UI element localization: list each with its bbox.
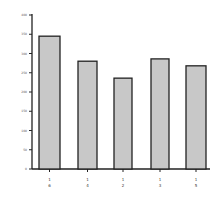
y-tick-label: 0 [25,167,27,171]
x-tick-label: 1 [159,177,162,182]
bar [186,66,206,169]
x-tick-label: 1 [48,177,51,182]
x-tick-label: 5 [195,183,198,188]
chart-bars [39,36,206,169]
x-tick-label: 4 [86,183,89,188]
bar [78,61,97,169]
bar [114,78,132,169]
x-tick-label: 2 [122,183,125,188]
x-tick-label: 1 [86,177,89,182]
bar-chart: 1614121315 050100150200250300350400 [0,0,222,205]
y-tick-label: 200 [21,90,27,94]
x-tick-label: 3 [159,183,162,188]
bar [39,36,60,169]
x-tick-label: 6 [48,183,51,188]
y-tick-label: 350 [21,32,27,36]
y-axis-labels: 050100150200250300350400 [21,13,27,171]
y-tick-label: 300 [21,52,27,56]
x-axis-labels: 1614121315 [48,177,198,188]
y-tick-label: 150 [21,109,27,113]
bar [151,59,169,169]
x-tick-label: 1 [195,177,198,182]
y-tick-label: 250 [21,71,27,75]
y-tick-label: 400 [21,13,27,17]
y-tick-label: 50 [23,148,27,152]
x-tick-label: 1 [122,177,125,182]
y-tick-label: 100 [21,129,27,133]
